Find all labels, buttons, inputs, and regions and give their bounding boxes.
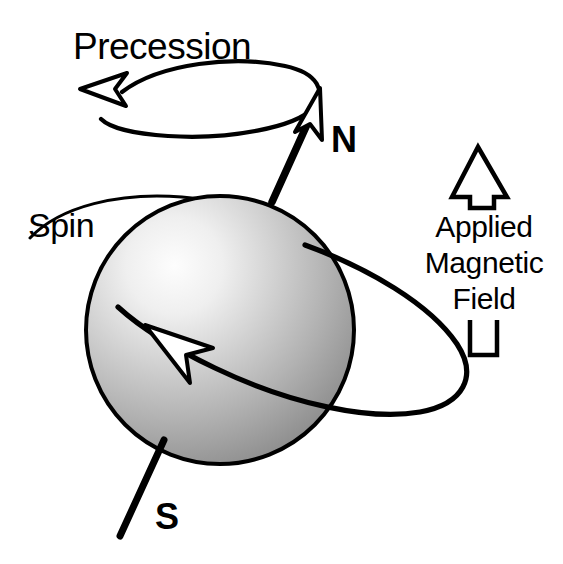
- applied-field-label-line-1: Applied: [415, 212, 553, 242]
- precession-diagram: Precession Spin N S Applied Magnetic Fie…: [0, 0, 563, 564]
- north-arrowhead-icon: [295, 88, 322, 140]
- applied-field-label-line-3: Field: [415, 284, 553, 314]
- precession-orbit-ellipse: [101, 61, 319, 136]
- applied-field-shaft-bottom: [470, 320, 497, 355]
- north-pole-label: N: [331, 122, 357, 158]
- spin-label: Spin: [28, 208, 94, 242]
- south-pole-label: S: [155, 499, 179, 535]
- precession-label: Precession: [73, 28, 251, 65]
- applied-field-label-line-2: Magnetic: [415, 248, 553, 278]
- nucleus-sphere-group: [86, 196, 354, 464]
- nucleus-sphere: [86, 196, 354, 464]
- applied-field-arrowhead-icon: [452, 147, 507, 208]
- applied-magnetic-field-label: Applied Magnetic Field: [415, 212, 553, 320]
- north-axis-line: [272, 118, 310, 202]
- precession-arrowhead-icon: [80, 73, 127, 106]
- precession-orbit-group: [80, 61, 319, 136]
